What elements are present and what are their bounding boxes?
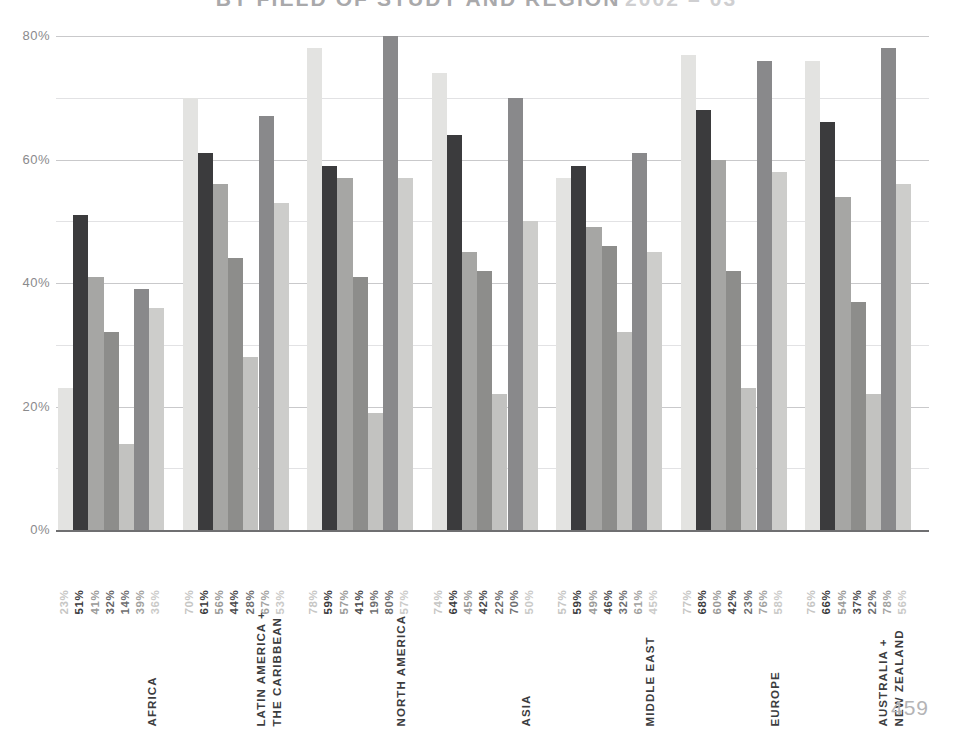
bar[interactable] bbox=[119, 444, 134, 530]
group-label: 74%64%45%42%22%70%50%ASIA bbox=[432, 532, 538, 732]
bar[interactable] bbox=[104, 332, 119, 530]
bar-value-label: 77% bbox=[681, 589, 693, 614]
bar[interactable] bbox=[322, 166, 337, 530]
bar-value-label: 80% bbox=[384, 589, 396, 614]
group-label: 70%61%56%44%28%67%53%LATIN AMERICA +THE … bbox=[183, 532, 289, 732]
bar[interactable] bbox=[896, 184, 911, 530]
chart-title-years: 2002 – 03 bbox=[625, 0, 737, 10]
bar[interactable] bbox=[757, 61, 772, 530]
bar[interactable] bbox=[353, 277, 368, 530]
bar-value-label: 22% bbox=[867, 589, 879, 614]
y-tick-60: 60% bbox=[0, 152, 50, 167]
bars-layer bbox=[56, 36, 929, 530]
bar[interactable] bbox=[368, 413, 383, 530]
bar-group bbox=[183, 36, 289, 530]
y-axis-labels: 80%60%40%20%0% bbox=[0, 36, 50, 530]
bar-value-label: 23% bbox=[742, 589, 754, 614]
bar[interactable] bbox=[632, 153, 647, 530]
bar[interactable] bbox=[73, 215, 88, 530]
bar[interactable] bbox=[213, 184, 228, 530]
group-label: 23%51%41%32%14%39%36%AFRICA bbox=[58, 532, 164, 732]
bar-value-label: 37% bbox=[851, 589, 863, 614]
bar[interactable] bbox=[647, 252, 662, 530]
bar[interactable] bbox=[851, 302, 866, 530]
bar[interactable] bbox=[711, 160, 726, 531]
bar[interactable] bbox=[696, 110, 711, 530]
bar[interactable] bbox=[617, 332, 632, 530]
bar-value-label: 54% bbox=[836, 589, 848, 614]
group-name-line: EUROPE bbox=[769, 671, 781, 726]
bar-group bbox=[556, 36, 662, 530]
group-label: 78%59%57%41%19%80%57%NORTH AMERICA bbox=[307, 532, 413, 732]
bar-value-label: 64% bbox=[447, 589, 459, 614]
bar-value-label: 36% bbox=[150, 589, 162, 614]
y-tick-20: 20% bbox=[0, 399, 50, 414]
group-name-line: MIDDLE EAST bbox=[645, 636, 657, 726]
bar[interactable] bbox=[866, 394, 881, 530]
bar-group bbox=[681, 36, 787, 530]
bar[interactable] bbox=[820, 122, 835, 530]
bar[interactable] bbox=[398, 178, 413, 530]
bar[interactable] bbox=[183, 98, 198, 530]
bar-value-label: 61% bbox=[198, 589, 210, 614]
bar-value-label: 78% bbox=[882, 589, 894, 614]
group-name-line: NORTH AMERICA bbox=[396, 614, 408, 726]
bar-value-label: 53% bbox=[274, 589, 286, 614]
y-tick-80: 80% bbox=[0, 28, 50, 43]
bar[interactable] bbox=[477, 271, 492, 530]
group-name-line: AFRICA bbox=[147, 676, 159, 726]
bar[interactable] bbox=[337, 178, 352, 530]
bar-value-label: 58% bbox=[772, 589, 784, 614]
bar-value-label: 49% bbox=[587, 589, 599, 614]
bar[interactable] bbox=[462, 252, 477, 530]
bar[interactable] bbox=[58, 388, 73, 530]
bar[interactable] bbox=[383, 36, 398, 530]
bar[interactable] bbox=[198, 153, 213, 530]
bar-value-label: 28% bbox=[244, 589, 256, 614]
bar[interactable] bbox=[492, 394, 507, 530]
bar-value-label: 42% bbox=[478, 589, 490, 614]
bar[interactable] bbox=[274, 203, 289, 530]
group-name-line: THE CARIBBEAN bbox=[271, 617, 283, 727]
bar-value-label: 23% bbox=[59, 589, 71, 614]
bar[interactable] bbox=[726, 271, 741, 530]
bar[interactable] bbox=[228, 258, 243, 530]
bar[interactable] bbox=[881, 48, 896, 530]
bar[interactable] bbox=[741, 388, 756, 530]
group-name-line: ASIA bbox=[520, 694, 532, 726]
bar-value-label: 66% bbox=[821, 589, 833, 614]
bar-value-label: 59% bbox=[572, 589, 584, 614]
bar[interactable] bbox=[508, 98, 523, 530]
bar[interactable] bbox=[835, 197, 850, 530]
bar[interactable] bbox=[134, 289, 149, 530]
bar[interactable] bbox=[602, 246, 617, 530]
bar[interactable] bbox=[243, 357, 258, 530]
bar-value-label: 78% bbox=[308, 589, 320, 614]
bar-group bbox=[58, 36, 164, 530]
bar-value-label: 57% bbox=[557, 589, 569, 614]
bar-value-label: 57% bbox=[338, 589, 350, 614]
bar-value-label: 32% bbox=[104, 589, 116, 614]
bar[interactable] bbox=[772, 172, 787, 530]
bar[interactable] bbox=[571, 166, 586, 530]
bar-value-label: 14% bbox=[120, 589, 132, 614]
bar[interactable] bbox=[805, 61, 820, 530]
bar-group bbox=[432, 36, 538, 530]
bar[interactable] bbox=[307, 48, 322, 530]
bar[interactable] bbox=[523, 221, 538, 530]
bar-value-label: 45% bbox=[463, 589, 475, 614]
bar-value-label: 50% bbox=[523, 589, 535, 614]
group-label: 57%59%49%46%32%61%45%MIDDLE EAST bbox=[556, 532, 662, 732]
bar-value-label: 45% bbox=[648, 589, 660, 614]
y-tick-0: 0% bbox=[0, 522, 50, 537]
bar[interactable] bbox=[586, 227, 601, 530]
bar-value-label: 41% bbox=[89, 589, 101, 614]
bar[interactable] bbox=[432, 73, 447, 530]
bar[interactable] bbox=[681, 55, 696, 530]
bar[interactable] bbox=[447, 135, 462, 530]
bar[interactable] bbox=[556, 178, 571, 530]
bar[interactable] bbox=[88, 277, 103, 530]
bar-value-label: 60% bbox=[712, 589, 724, 614]
bar[interactable] bbox=[149, 308, 164, 530]
bar[interactable] bbox=[259, 116, 274, 530]
